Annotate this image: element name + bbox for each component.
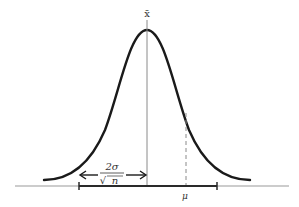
frac-root: √	[100, 175, 107, 186]
x-bar-label: x̄	[144, 8, 150, 19]
frac-numerator: 2σ	[104, 161, 119, 172]
mu-label: μ	[182, 191, 188, 201]
frac-denominator: n	[112, 175, 118, 186]
normal-distribution-diagram: 2σ √ n x̄ μ	[0, 0, 299, 207]
half-width-label: 2σ √ n	[100, 161, 124, 186]
